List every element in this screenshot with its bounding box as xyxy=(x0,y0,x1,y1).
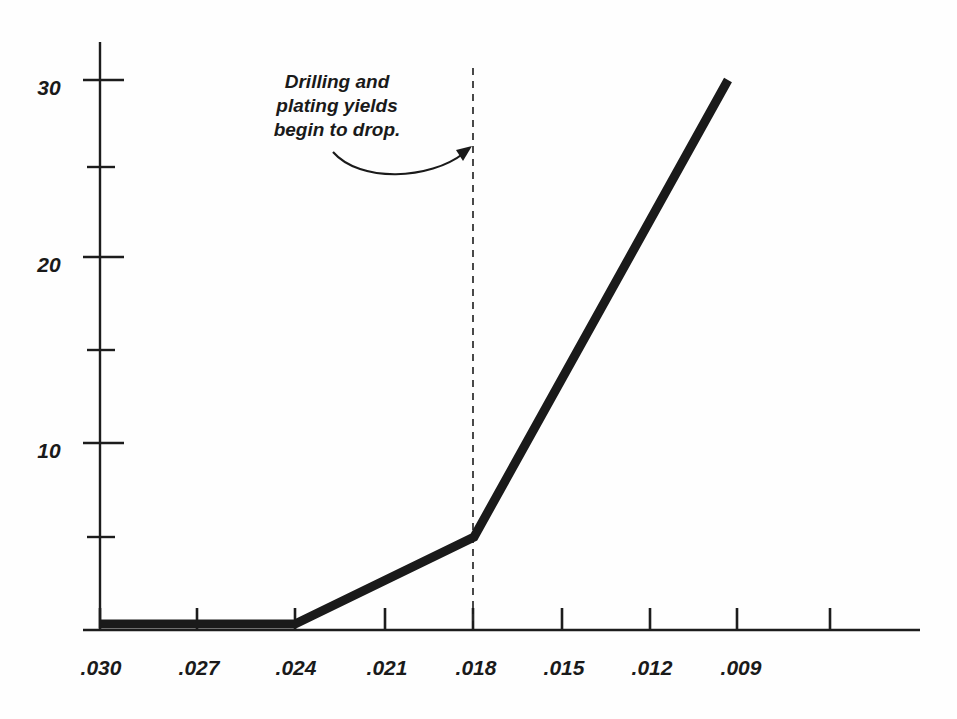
line-chart: 30 20 10 .030 .027 .024 .021 .018 .015 .… xyxy=(0,0,957,719)
x-tick-label-009: .009 xyxy=(721,656,762,679)
x-tick-label-030: .030 xyxy=(81,656,122,679)
x-tick-label-027: .027 xyxy=(179,656,221,679)
x-tick-label-018: .018 xyxy=(456,656,497,679)
y-tick-label-10: 10 xyxy=(37,439,61,462)
y-tick-label-30: 30 xyxy=(37,76,61,99)
x-tick-label-021: .021 xyxy=(367,656,408,679)
annotation-arrow-curve xyxy=(333,152,464,174)
x-tick-label-012: .012 xyxy=(632,656,673,679)
chart-page: 30 20 10 .030 .027 .024 .021 .018 .015 .… xyxy=(0,0,957,719)
x-axis: .030 .027 .024 .021 .018 .015 .012 .009 xyxy=(81,608,920,679)
y-axis: 30 20 10 xyxy=(36,42,124,628)
data-line-defect-rate xyxy=(100,80,728,624)
annotation-line-3: begin to drop. xyxy=(274,119,401,140)
x-tick-label-024: .024 xyxy=(276,656,317,679)
annotation-line-2: plating yields xyxy=(275,95,397,116)
annotation-arrow-head xyxy=(456,146,472,161)
y-tick-label-20: 20 xyxy=(36,253,61,276)
x-tick-label-015: .015 xyxy=(544,656,585,679)
annotation-group: Drilling and plating yields begin to dro… xyxy=(274,71,472,174)
annotation-line-1: Drilling and xyxy=(285,71,390,92)
